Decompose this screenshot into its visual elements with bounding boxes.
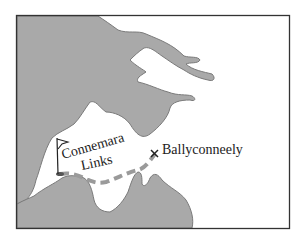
map-canvas: Connemara Links Ballyconneely: [0, 0, 305, 241]
label-ballyconneely: Ballyconneely: [162, 142, 243, 157]
